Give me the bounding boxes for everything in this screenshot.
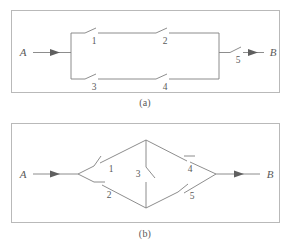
terminal-label-A-a: A <box>19 46 27 58</box>
upper-right-wire-b-seg1 <box>146 140 187 161</box>
circuit-panel-b: 1 2 3 4 5 A B <box>11 123 280 223</box>
switch-label-5-b: 5 <box>190 191 195 201</box>
upper-left-wire-b-seg2 <box>100 140 146 163</box>
switch-label-5-a: 5 <box>236 55 241 65</box>
switch-1-blade-b <box>94 156 101 166</box>
switch-label-4-b: 4 <box>188 164 193 174</box>
input-arrowhead-b <box>50 171 60 178</box>
switch-label-3-b: 3 <box>136 169 141 179</box>
switch-label-2-b: 2 <box>107 190 112 200</box>
switch-label-1-b: 1 <box>109 164 114 174</box>
terminal-label-A-b: A <box>19 168 27 180</box>
figure-root: 1 2 3 4 5 A B (a) <box>0 0 290 247</box>
caption-a: (a) <box>0 97 290 108</box>
switch-label-4-a: 4 <box>163 82 168 92</box>
switch-5-blade-b <box>178 184 188 192</box>
circuit-diagram-a: 1 2 3 4 5 A B <box>12 11 281 94</box>
output-arrowhead-b <box>234 171 244 178</box>
input-arrowhead-a <box>50 49 60 56</box>
terminal-label-B-b: B <box>267 168 274 180</box>
upper-right-wire-b-seg2 <box>190 162 216 174</box>
lower-left-wire-b-seg1 <box>78 174 94 182</box>
lower-right-wire-b-seg1 <box>146 192 178 208</box>
switch-label-2-a: 2 <box>163 36 168 46</box>
terminal-label-B-a: B <box>270 46 277 58</box>
switch-2-blade-a <box>156 28 167 33</box>
switch-label-3-a: 3 <box>92 82 97 92</box>
switch-3-blade-a <box>85 74 96 79</box>
output-arrowhead-a <box>248 49 258 56</box>
circuit-diagram-b: 1 2 3 4 5 A B <box>12 124 281 224</box>
switch-label-1-a: 1 <box>92 36 97 46</box>
switch-1-blade-a <box>85 28 96 33</box>
switch-5-blade-a <box>230 47 241 53</box>
upper-left-wire-b-seg1 <box>78 166 94 174</box>
caption-b: (b) <box>0 228 290 239</box>
switch-4-blade-a <box>156 74 167 79</box>
circuit-panel-a: 1 2 3 4 5 A B <box>11 10 280 93</box>
switch-3-blade-b <box>146 167 155 178</box>
